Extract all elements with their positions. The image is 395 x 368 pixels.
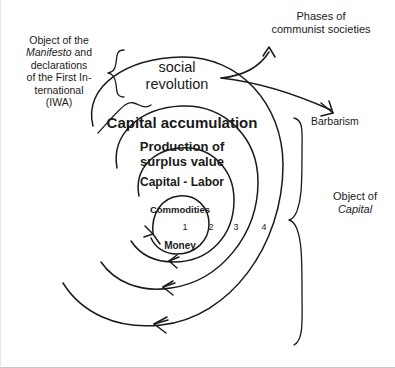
- obj-manifesto-line-4: of the First In-: [27, 71, 92, 83]
- diagram-canvas: .stroke { fill: none; stroke: #1a1a1a; s…: [0, 0, 395, 368]
- spiral-turn-number-3: 3: [230, 222, 242, 232]
- obj-capital-line-1: Object of: [333, 190, 377, 202]
- label-phases-of-communist-societies: Phases of communist societies: [249, 10, 393, 36]
- spiral-turn-number-1: 1: [179, 222, 191, 232]
- spiral-turn-number-2: 2: [205, 222, 217, 232]
- obj-manifesto-line-2: and: [72, 46, 92, 58]
- obj-manifesto-line-5: ternational: [34, 84, 83, 96]
- brace-right-object-of-capital: [289, 118, 302, 345]
- obj-manifesto-line-3: declarations: [31, 59, 88, 71]
- annotation-object-of-capital: Object ofCapital: [317, 190, 393, 216]
- label-capital-labor: Capital - Labor: [113, 175, 251, 189]
- obj-manifesto-italic-manifesto: Manifesto: [26, 46, 72, 58]
- obj-manifesto-line-6: (IWA): [46, 96, 72, 108]
- annotation-object-of-manifesto: Object of theManifesto anddeclarationsof…: [7, 34, 111, 108]
- label-money: Money: [133, 240, 227, 252]
- label-capital-accumulation: Capital accumulation: [97, 114, 267, 132]
- label-social-revolution: social revolution: [131, 59, 223, 93]
- spiral-turn-number-4: 4: [258, 222, 270, 232]
- label-production-of-surplus-value: Production of surplus value: [107, 139, 257, 170]
- label-commodities: Commodities: [127, 204, 233, 215]
- label-barbarism: Barbarism: [311, 115, 391, 127]
- fork-social-revolution: [221, 47, 333, 116]
- obj-manifesto-line-1: Object of the: [29, 34, 89, 46]
- obj-capital-italic-capital: Capital: [338, 203, 372, 215]
